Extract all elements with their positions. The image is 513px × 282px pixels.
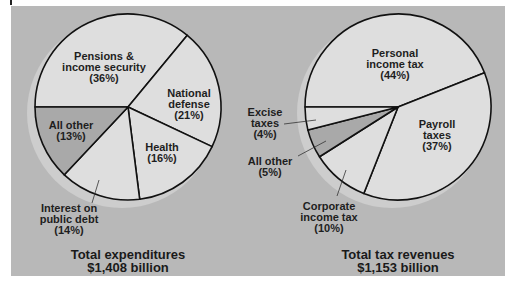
title-amount: $1,153 billion bbox=[341, 261, 454, 274]
label-all-other: All other (13%) bbox=[49, 120, 94, 142]
label-line: (14%) bbox=[40, 225, 99, 236]
label-all-other-revenue: All other (5%) bbox=[248, 156, 293, 178]
label-line: (10%) bbox=[300, 223, 357, 234]
label-line: (4%) bbox=[248, 129, 283, 140]
label-line: (16%) bbox=[145, 153, 179, 164]
label-pensions: Pensions & income security (36%) bbox=[62, 51, 146, 84]
revenues-pie bbox=[305, 14, 491, 200]
label-line: (5%) bbox=[248, 167, 293, 178]
label-line: (44%) bbox=[366, 70, 423, 81]
label-interest: Interest on public debt (14%) bbox=[40, 203, 99, 236]
label-line: (37%) bbox=[419, 141, 456, 152]
label-line: (21%) bbox=[167, 110, 210, 121]
title-amount: $1,408 billion bbox=[71, 261, 186, 274]
label-line: (36%) bbox=[62, 73, 146, 84]
label-health: Health (16%) bbox=[145, 142, 179, 164]
label-payroll: Payroll taxes (37%) bbox=[419, 119, 456, 152]
label-corporate: Corporate income tax (10%) bbox=[300, 201, 357, 234]
label-excise: Excise taxes (4%) bbox=[248, 107, 283, 140]
label-line: (13%) bbox=[49, 131, 94, 142]
revenues-title: Total tax revenues $1,153 billion bbox=[341, 248, 454, 274]
label-national-defense: National defense (21%) bbox=[167, 88, 210, 121]
expenditures-title: Total expenditures $1,408 billion bbox=[71, 248, 186, 274]
label-personal-income: Personal income tax (44%) bbox=[366, 48, 423, 81]
